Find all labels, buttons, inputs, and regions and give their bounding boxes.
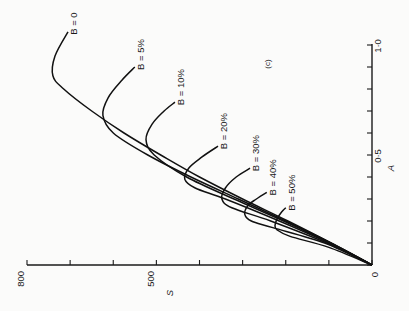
origin-label: 0 — [369, 272, 380, 277]
curve-b-1 — [103, 67, 372, 265]
panel-label: (c) — [263, 59, 272, 69]
curve-b-2 — [146, 102, 372, 265]
curve-label: B = 50% — [286, 174, 297, 211]
curve-label: B = 40% — [267, 159, 278, 196]
curve-label: B = 5% — [135, 39, 146, 70]
curve-label: B = 10% — [175, 68, 186, 105]
s-tick-label-500: 500 — [145, 271, 156, 287]
a-tick-label-0-5: 0·5 — [372, 149, 383, 163]
curve-label: B = 20% — [218, 112, 229, 149]
curves — [52, 32, 372, 265]
a-tick-label-1-0: 1·0 — [372, 39, 383, 53]
chart: 800 500 0 0·5 1·0 S A (c) B = 0B = 5%B =… — [0, 0, 409, 311]
curve-b-0 — [52, 32, 372, 265]
s-axis-ticks — [27, 260, 372, 265]
a-axis-title: A — [385, 165, 396, 172]
s-axis-title: S — [164, 289, 175, 296]
axes — [27, 44, 372, 265]
curve-b-3 — [185, 146, 372, 265]
curve-b-4 — [222, 168, 372, 265]
s-tick-label-800: 800 — [15, 271, 26, 287]
curve-label: B = 0 — [68, 12, 79, 34]
curve-label: B = 30% — [250, 134, 261, 171]
